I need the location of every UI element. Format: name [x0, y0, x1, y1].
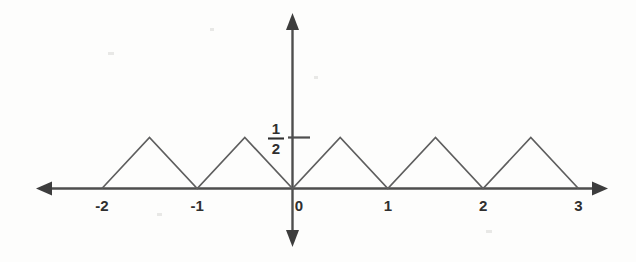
- fraction-denominator: 2: [272, 140, 280, 157]
- x-tick-label--2: -2: [95, 197, 108, 214]
- up-arrowhead: [286, 13, 299, 30]
- left-arrowhead: [36, 182, 52, 196]
- fraction-numerator: 1: [272, 120, 280, 137]
- y-tick-label-one-half: 1 2: [268, 120, 284, 157]
- down-arrowhead: [286, 230, 299, 247]
- figure-canvas: -2 -1 0 1 2 3 1 2: [0, 0, 636, 262]
- x-tick-label-2: 2: [479, 197, 487, 214]
- x-tick-label-1: 1: [384, 197, 392, 214]
- triangle-wave-curve: [102, 138, 579, 189]
- triangle-wave-plot: -2 -1 0 1 2 3 1 2: [0, 0, 636, 262]
- x-axis: [36, 182, 608, 196]
- x-tick-label-3: 3: [574, 197, 582, 214]
- x-tick-label--1: -1: [191, 197, 204, 214]
- x-tick-label-0: 0: [295, 197, 303, 214]
- right-arrowhead: [592, 182, 608, 196]
